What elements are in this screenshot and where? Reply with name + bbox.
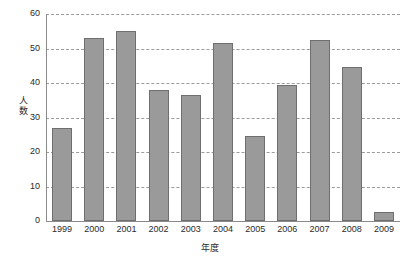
bar <box>245 136 265 221</box>
y-axis-tick-label: 30 <box>0 113 40 122</box>
bar <box>116 31 136 221</box>
x-axis-tick-label: 2000 <box>78 224 110 234</box>
bar <box>52 128 72 221</box>
x-axis-tick-label: 2003 <box>175 224 207 234</box>
x-axis-tick-label: 2005 <box>239 224 271 234</box>
bar <box>310 40 330 221</box>
y-axis-tick-label: 20 <box>0 147 40 156</box>
bar <box>342 67 362 221</box>
y-axis-tick-label: 40 <box>0 78 40 87</box>
x-axis-tick-label: 2006 <box>271 224 303 234</box>
bar <box>149 90 169 221</box>
bar <box>374 212 394 221</box>
x-axis-tick-labels: 1999200020012002200320042005200620072008… <box>46 224 400 238</box>
x-axis-tick-label: 2008 <box>336 224 368 234</box>
x-axis-tick-label: 2002 <box>143 224 175 234</box>
bar <box>277 85 297 221</box>
y-axis-title-char-1: 人 <box>17 96 29 106</box>
x-axis-tick-label: 2009 <box>368 224 400 234</box>
bars-layer <box>46 14 400 221</box>
y-axis-tick-label: 0 <box>0 216 40 225</box>
x-axis-title: 年度 <box>0 243 420 253</box>
y-axis-tick-label: 50 <box>0 44 40 53</box>
bar <box>181 95 201 221</box>
y-axis-tick-label: 60 <box>0 9 40 18</box>
y-axis-tick-label: 10 <box>0 182 40 191</box>
x-axis-tick-label: 2007 <box>303 224 335 234</box>
x-axis-tick-label: 2004 <box>207 224 239 234</box>
axis-baseline <box>46 221 400 222</box>
bar <box>213 43 233 221</box>
x-axis-tick-label: 2001 <box>110 224 142 234</box>
x-axis-tick-label: 1999 <box>46 224 78 234</box>
bar <box>84 38 104 221</box>
bar-chart: 人 数 0102030405060 1999200020012002200320… <box>0 0 420 266</box>
